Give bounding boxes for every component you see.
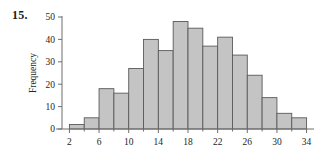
x-axis-tick-label: 22: [213, 137, 223, 147]
histogram-bar: [203, 46, 218, 129]
histogram-bar: [218, 37, 233, 129]
histogram-bar: [188, 28, 203, 129]
histogram-figure: 15. 010203040502610141822263034Frequency: [0, 0, 325, 158]
histogram-chart: 010203040502610141822263034Frequency: [0, 0, 325, 158]
x-axis-tick-label: 18: [183, 137, 193, 147]
histogram-bar: [277, 113, 292, 129]
histogram-bar: [144, 39, 159, 129]
y-axis-title: Frequency: [28, 53, 38, 93]
histogram-bar: [158, 51, 173, 129]
x-axis-tick-label: 10: [124, 137, 134, 147]
histogram-bar: [99, 89, 114, 129]
y-axis-tick-label: 50: [46, 12, 56, 22]
histogram-bar: [129, 69, 144, 129]
y-axis-tick-label: 0: [50, 124, 55, 134]
x-axis-tick-label: 26: [243, 137, 253, 147]
histogram-bar: [114, 93, 129, 129]
x-axis-tick-label: 30: [272, 137, 282, 147]
y-axis-tick-label: 10: [46, 102, 56, 112]
x-axis-tick-label: 6: [97, 137, 102, 147]
y-axis-tick-label: 30: [46, 57, 56, 67]
histogram-bar: [232, 55, 247, 129]
x-axis-tick-label: 2: [67, 137, 72, 147]
histogram-bar: [173, 21, 188, 129]
x-axis-tick-label: 34: [302, 137, 312, 147]
histogram-bar: [84, 118, 99, 129]
histogram-bar: [69, 125, 84, 129]
histogram-bar: [292, 118, 307, 129]
x-axis-tick-label: 14: [154, 137, 164, 147]
y-axis-tick-label: 20: [46, 80, 56, 90]
histogram-bar: [262, 98, 277, 129]
y-axis-tick-label: 40: [46, 35, 56, 45]
histogram-bar: [247, 75, 262, 129]
